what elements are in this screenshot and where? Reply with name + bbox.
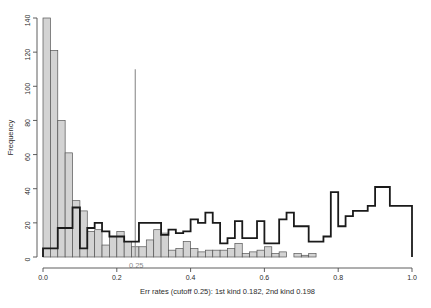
histogram-bar bbox=[161, 233, 168, 257]
histogram-bar bbox=[279, 252, 286, 257]
filled-histogram-bars bbox=[43, 18, 316, 257]
histogram-bar bbox=[294, 254, 301, 257]
histogram-bar bbox=[198, 252, 205, 257]
y-tick-label: 0 bbox=[24, 257, 31, 261]
histogram-bar bbox=[124, 242, 131, 257]
y-axis-title: Frequency bbox=[6, 120, 15, 156]
histogram-bar bbox=[301, 255, 308, 257]
histogram-bar bbox=[87, 231, 94, 257]
histogram-bar bbox=[235, 243, 242, 257]
histogram-bar bbox=[109, 237, 116, 257]
histogram-bar bbox=[183, 242, 190, 257]
y-tick-label: 120 bbox=[24, 49, 31, 61]
histogram-bar bbox=[58, 120, 65, 257]
x-tick-label: 0.8 bbox=[333, 274, 343, 281]
histogram-bar bbox=[176, 248, 183, 257]
histogram-bar bbox=[228, 248, 235, 257]
histogram-bar bbox=[220, 250, 227, 257]
histogram-bar bbox=[168, 250, 175, 257]
y-tick-label: 20 bbox=[24, 221, 31, 229]
histogram-bar bbox=[146, 240, 153, 257]
histogram-bar bbox=[95, 230, 102, 257]
x-tick-label: 0.2 bbox=[112, 274, 122, 281]
histogram-bar bbox=[65, 153, 72, 257]
histogram-bar bbox=[242, 254, 249, 257]
histogram-bar bbox=[191, 248, 198, 257]
histogram-bar bbox=[43, 18, 50, 257]
histogram-bar bbox=[154, 230, 161, 257]
histogram-bar bbox=[250, 252, 257, 257]
x-tick-label: 1.0 bbox=[407, 274, 417, 281]
x-tick-label: 0.4 bbox=[186, 274, 196, 281]
histogram-chart: 0.250204060801001201400.00.20.40.60.81.0… bbox=[0, 0, 431, 308]
cutoff-label: 0.25 bbox=[129, 261, 144, 270]
x-tick-label: 0.6 bbox=[260, 274, 270, 281]
histogram-bar bbox=[309, 254, 316, 257]
histogram-bar bbox=[102, 245, 109, 257]
y-tick-label: 80 bbox=[24, 119, 31, 127]
histogram-bar bbox=[205, 250, 212, 257]
y-tick-label: 60 bbox=[24, 153, 31, 161]
histogram-bar bbox=[50, 50, 57, 257]
histogram-bar bbox=[213, 250, 220, 257]
y-tick-label: 100 bbox=[24, 83, 31, 95]
x-tick-label: 0.0 bbox=[38, 274, 48, 281]
histogram-bar bbox=[73, 201, 80, 257]
histogram-bar bbox=[272, 254, 279, 257]
histogram-bar bbox=[117, 231, 124, 257]
histogram-bar bbox=[264, 247, 271, 257]
histogram-bar bbox=[257, 250, 264, 257]
histogram-bar bbox=[80, 211, 87, 257]
histogram-bar bbox=[139, 247, 146, 257]
y-tick-label: 40 bbox=[24, 187, 31, 195]
y-tick-label: 140 bbox=[24, 15, 31, 27]
x-axis-title: Err rates (cutoff 0.25): 1st kind 0.182,… bbox=[140, 287, 315, 296]
histogram-plot-container: 0.250204060801001201400.00.20.40.60.81.0… bbox=[0, 0, 431, 308]
